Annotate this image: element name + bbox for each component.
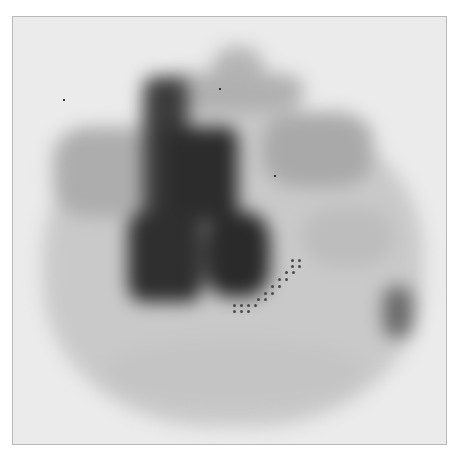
region-bottom-arc: [103, 337, 363, 407]
speck: [274, 175, 276, 177]
region-left-wing: [53, 127, 153, 217]
marker-dot: [247, 310, 250, 313]
marker-dot: [257, 298, 260, 301]
marker-dot: [291, 259, 294, 262]
marker-dot: [233, 304, 236, 307]
marker-dot: [264, 298, 267, 301]
region-right-spot: [383, 287, 413, 337]
marker-dot: [285, 271, 288, 274]
speck: [63, 99, 65, 101]
marker-dot: [264, 292, 267, 295]
region-lower-right-lobe: [205, 212, 270, 297]
marker-dot: [271, 292, 274, 295]
speck: [219, 88, 221, 90]
marker-dot: [247, 304, 250, 307]
marker-dot: [285, 278, 288, 281]
marker-dot: [233, 310, 236, 313]
region-lower-left-lobe: [128, 212, 203, 302]
marker-dot: [278, 278, 281, 281]
scan-frame: [12, 16, 447, 445]
marker-dot: [240, 310, 243, 313]
region-right-lower: [303, 207, 393, 267]
marker-dot: [271, 285, 274, 288]
region-central-mass: [163, 127, 238, 222]
marker-dot: [240, 304, 243, 307]
marker-dot: [254, 304, 257, 307]
marker-dot: [292, 271, 295, 274]
region-right-wing: [263, 112, 373, 187]
marker-dot: [298, 259, 301, 262]
marker-dot: [298, 265, 301, 268]
marker-dot: [291, 265, 294, 268]
scan-intensity-layer: [13, 17, 446, 444]
marker-dot: [278, 285, 281, 288]
